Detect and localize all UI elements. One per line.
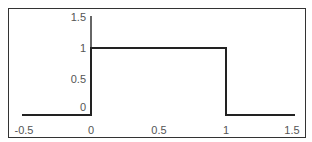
y-tick-label: 0 xyxy=(80,101,86,113)
x-tick-label: -0.5 xyxy=(15,124,34,136)
x-tick-label: 0.5 xyxy=(151,124,166,136)
x-tick-label: 0 xyxy=(88,124,94,136)
x-tick-label: 1 xyxy=(223,124,229,136)
y-tick-label: 1.5 xyxy=(71,11,86,23)
y-tick-label: 0.5 xyxy=(71,73,86,85)
y-tick-label: 1 xyxy=(80,42,86,54)
chart-plot: 1.5 1 0.5 0 -0.5 0 0.5 1 1.5 xyxy=(0,0,312,142)
x-tick-label: 1.5 xyxy=(284,124,299,136)
pulse-line xyxy=(22,48,295,115)
